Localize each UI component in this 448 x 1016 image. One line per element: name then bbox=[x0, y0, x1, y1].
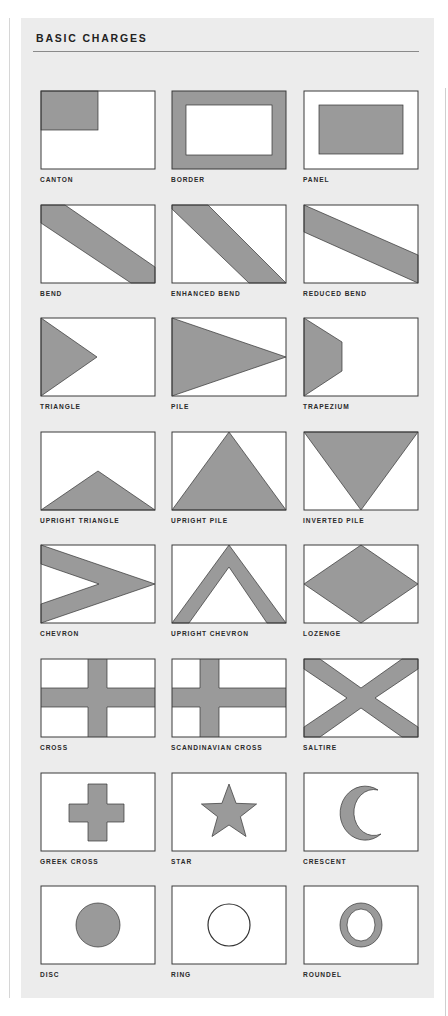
pile-icon bbox=[171, 317, 287, 397]
charge-canton: CANTON bbox=[40, 90, 156, 170]
charge-border: BORDER bbox=[171, 90, 287, 170]
charge-label: PANEL bbox=[303, 176, 329, 183]
charge-pile: PILE bbox=[171, 317, 287, 397]
star-icon bbox=[171, 772, 287, 852]
upright-chevron-icon bbox=[171, 544, 287, 624]
bend-icon bbox=[40, 204, 156, 284]
roundel-icon bbox=[303, 885, 419, 965]
charge-label: ROUNDEL bbox=[303, 971, 342, 978]
charge-triangle: TRIANGLE bbox=[40, 317, 156, 397]
charge-chevron: CHEVRON bbox=[40, 544, 156, 624]
crescent-icon bbox=[303, 772, 419, 852]
enhanced-bend-icon bbox=[171, 204, 287, 284]
upright-triangle-icon bbox=[40, 431, 156, 511]
charge-label: CANTON bbox=[40, 176, 74, 183]
chevron-icon bbox=[40, 544, 156, 624]
charge-crescent: CRESCENT bbox=[303, 772, 419, 852]
charge-lozenge: LOZENGE bbox=[303, 544, 419, 624]
upright-pile-icon bbox=[171, 431, 287, 511]
charge-label: CROSS bbox=[40, 744, 68, 751]
triangle-icon bbox=[40, 317, 156, 397]
charge-label: STAR bbox=[171, 858, 192, 865]
charge-inverted-pile: INVERTED PILE bbox=[303, 431, 419, 511]
section-title: BASIC CHARGES bbox=[36, 32, 148, 44]
charge-disc: DISC bbox=[40, 885, 156, 965]
canton-icon bbox=[40, 90, 156, 170]
charge-label: UPRIGHT TRIANGLE bbox=[40, 517, 120, 524]
charge-panel: PANEL bbox=[303, 90, 419, 170]
charge-label: ENHANCED BEND bbox=[171, 290, 241, 297]
charge-upright-chevron: UPRIGHT CHEVRON bbox=[171, 544, 287, 624]
cross-icon bbox=[40, 658, 156, 738]
charge-reduced-bend: REDUCED BEND bbox=[303, 204, 419, 284]
panel-icon bbox=[303, 90, 419, 170]
lozenge-icon bbox=[303, 544, 419, 624]
charge-label: GREEK CROSS bbox=[40, 858, 99, 865]
charge-label: REDUCED BEND bbox=[303, 290, 367, 297]
charge-trapezium: TRAPEZIUM bbox=[303, 317, 419, 397]
charge-greek-cross: GREEK CROSS bbox=[40, 772, 156, 852]
charge-label: SALTIRE bbox=[303, 744, 337, 751]
charge-label: TRAPEZIUM bbox=[303, 403, 350, 410]
charge-ring: RING bbox=[171, 885, 287, 965]
charge-label: UPRIGHT PILE bbox=[171, 517, 228, 524]
title-divider bbox=[33, 51, 419, 52]
charge-label: RING bbox=[171, 971, 191, 978]
left-margin-line bbox=[9, 18, 10, 998]
reduced-bend-icon bbox=[303, 204, 419, 284]
charge-upright-triangle: UPRIGHT TRIANGLE bbox=[40, 431, 156, 511]
charge-label: SCANDINAVIAN CROSS bbox=[171, 744, 263, 751]
charge-label: BORDER bbox=[171, 176, 205, 183]
charge-label: CRESCENT bbox=[303, 858, 346, 865]
border-icon bbox=[171, 90, 287, 170]
trapezium-icon bbox=[303, 317, 419, 397]
charge-label: DISC bbox=[40, 971, 59, 978]
charge-label: LOZENGE bbox=[303, 630, 341, 637]
charge-scandinavian-cross: SCANDINAVIAN CROSS bbox=[171, 658, 287, 738]
charge-label: TRIANGLE bbox=[40, 403, 81, 410]
charge-label: CHEVRON bbox=[40, 630, 79, 637]
greek-cross-icon bbox=[40, 772, 156, 852]
charge-enhanced-bend: ENHANCED BEND bbox=[171, 204, 287, 284]
charge-upright-pile: UPRIGHT PILE bbox=[171, 431, 287, 511]
disc-icon bbox=[40, 885, 156, 965]
charge-label: BEND bbox=[40, 290, 62, 297]
charge-label: PILE bbox=[171, 403, 189, 410]
right-margin-line bbox=[445, 88, 446, 1016]
scandinavian-cross-icon bbox=[171, 658, 287, 738]
inverted-pile-icon bbox=[303, 431, 419, 511]
charge-star: STAR bbox=[171, 772, 287, 852]
charge-cross: CROSS bbox=[40, 658, 156, 738]
charge-saltire: SALTIRE bbox=[303, 658, 419, 738]
charge-roundel: ROUNDEL bbox=[303, 885, 419, 965]
charge-bend: BEND bbox=[40, 204, 156, 284]
ring-icon bbox=[171, 885, 287, 965]
saltire-icon bbox=[303, 658, 419, 738]
charge-label: UPRIGHT CHEVRON bbox=[171, 630, 249, 637]
charge-label: INVERTED PILE bbox=[303, 517, 365, 524]
